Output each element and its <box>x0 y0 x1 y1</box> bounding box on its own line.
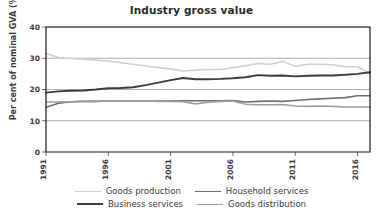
x-tick-label: 1996 <box>101 159 110 180</box>
chart-figure: Industry gross value Per cent of nominal… <box>0 0 383 224</box>
x-tick-label: 2006 <box>226 159 235 180</box>
legend-swatch-goods-production <box>75 191 101 192</box>
legend-swatch-business-services <box>77 203 103 205</box>
legend-label-goods-production: Goods production <box>106 186 181 196</box>
data-line-goods-distribution <box>46 101 370 107</box>
legend-row-2: Business services Goods distribution <box>77 199 306 209</box>
legend-label-goods-distribution: Goods distribution <box>228 199 306 209</box>
legend-item-household-services[interactable]: Household services <box>195 186 309 196</box>
legend-item-business-services[interactable]: Business services <box>77 199 183 209</box>
legend-label-household-services: Household services <box>226 186 309 196</box>
y-axis-ticks-group: 010203040 <box>30 23 46 157</box>
y-tick-label: 10 <box>30 117 40 126</box>
x-tick-label: 1991 <box>39 159 48 180</box>
y-tick-label: 0 <box>35 148 40 157</box>
y-tick-label: 20 <box>30 85 40 94</box>
plot-area: 010203040 199119962001200620112016 <box>0 0 383 186</box>
x-axis-ticks-group: 199119962001200620112016 <box>39 152 360 180</box>
legend-item-goods-production[interactable]: Goods production <box>75 186 181 196</box>
chart-legend: Goods production Household services Busi… <box>0 186 383 209</box>
legend-swatch-household-services <box>195 191 221 192</box>
x-tick-label: 2016 <box>351 159 360 180</box>
legend-label-business-services: Business services <box>108 199 183 209</box>
x-tick-label: 2011 <box>288 159 297 180</box>
data-lines-group <box>46 54 370 108</box>
x-tick-label: 2001 <box>164 159 173 180</box>
data-line-goods-production <box>46 54 370 74</box>
legend-row-1: Goods production Household services <box>75 186 309 196</box>
y-tick-label: 40 <box>30 23 40 32</box>
y-tick-label: 30 <box>30 54 40 63</box>
legend-swatch-goods-distribution <box>197 204 223 205</box>
legend-item-goods-distribution[interactable]: Goods distribution <box>197 199 306 209</box>
